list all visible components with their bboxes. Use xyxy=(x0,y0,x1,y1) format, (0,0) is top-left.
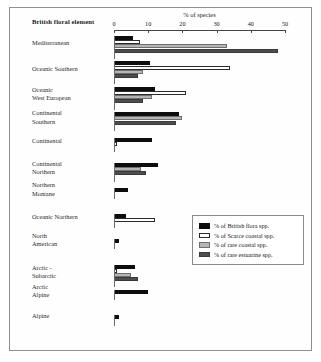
group-baseline xyxy=(114,61,115,84)
group-baseline xyxy=(114,188,115,198)
legend-item: % of rare estuarine spp. xyxy=(199,250,298,260)
bar xyxy=(114,277,138,281)
legend-item: % of rare coastal spp. xyxy=(199,240,298,250)
category-label-line: Subarctic xyxy=(32,272,110,280)
bar xyxy=(114,99,143,103)
category-label: ContinentalNorthern xyxy=(32,160,110,176)
bar xyxy=(114,138,152,142)
category-label-line: North xyxy=(32,232,110,240)
x-tick-label-50: 50 xyxy=(282,20,288,27)
chart-legend: % of British flora spp.% of Scarce coast… xyxy=(192,215,304,265)
bar xyxy=(114,74,138,78)
group-baseline xyxy=(114,214,115,228)
category-label-line: Alpine xyxy=(32,291,110,299)
legend-item: % of Scarce coastal spp. xyxy=(199,231,298,241)
category-column-header: British floral element xyxy=(32,18,108,26)
group-baseline xyxy=(114,87,115,110)
bar xyxy=(114,49,278,53)
legend-item: % of British flora spp. xyxy=(199,221,298,231)
group-baseline xyxy=(114,36,115,59)
x-tick-label-20: 20 xyxy=(179,20,185,27)
x-tick-label-40: 40 xyxy=(248,20,254,27)
category-label-line: Oceanic xyxy=(32,86,110,94)
category-label: Oceanic Northern xyxy=(32,213,110,221)
category-label: Mediterranean xyxy=(32,39,110,47)
category-label: NorthernMontane xyxy=(32,181,110,197)
category-label-line: Southern xyxy=(32,118,110,126)
bar xyxy=(114,121,176,125)
category-label: Arctic -Subarctic xyxy=(32,264,110,280)
legend-swatch-icon xyxy=(199,242,210,248)
category-label-line: Arctic - xyxy=(32,264,110,272)
category-label-line: Montane xyxy=(32,190,110,198)
category-label-line: Continental xyxy=(32,160,110,168)
legend-swatch-icon xyxy=(199,233,210,239)
group-baseline xyxy=(114,315,115,325)
category-label: Oceanic Southern xyxy=(32,65,110,73)
category-label: Continental xyxy=(32,137,110,145)
group-baseline xyxy=(114,138,115,152)
bar xyxy=(114,290,148,294)
category-label-line: West European xyxy=(32,94,110,102)
x-axis-title: % of species xyxy=(114,11,285,19)
group-baseline xyxy=(114,112,115,131)
category-label-line: Oceanic Southern xyxy=(32,65,110,73)
category-label-line: Continental xyxy=(32,109,110,117)
category-label: NorthAmerican xyxy=(32,232,110,248)
category-label-line: Alpine xyxy=(32,312,110,320)
group-baseline xyxy=(114,239,115,249)
legend-swatch-icon xyxy=(199,223,210,229)
category-label-line: Oceanic Northern xyxy=(32,213,110,221)
category-label: ContinentalSouthern xyxy=(32,109,110,125)
group-baseline xyxy=(114,163,115,182)
legend-swatch-icon xyxy=(199,252,210,258)
category-label-line: Continental xyxy=(32,137,110,145)
category-label-line: American xyxy=(32,240,110,248)
chart-figure: British floral element % of species 0102… xyxy=(0,0,321,362)
category-label-line: Arctic xyxy=(32,283,110,291)
x-tick-50 xyxy=(285,30,286,33)
group-baseline xyxy=(114,265,115,288)
bar xyxy=(114,218,155,222)
category-label: Alpine xyxy=(32,312,110,320)
category-label-line: Northern xyxy=(32,168,110,176)
category-label-line: Mediterranean xyxy=(32,39,110,47)
group-baseline xyxy=(114,290,115,300)
category-label: ArcticAlpine xyxy=(32,283,110,299)
legend-label: % of Scarce coastal spp. xyxy=(214,232,274,240)
legend-label: % of rare coastal spp. xyxy=(214,241,267,249)
category-label: OceanicWest European xyxy=(32,86,110,102)
legend-label: % of British flora spp. xyxy=(214,222,269,230)
x-tick-label-0: 0 xyxy=(112,20,115,27)
x-tick-label-30: 30 xyxy=(214,20,220,27)
bar xyxy=(114,171,146,175)
plot-area xyxy=(114,31,285,336)
x-tick-label-10: 10 xyxy=(145,20,151,27)
category-label-line: Northern xyxy=(32,181,110,189)
bar xyxy=(114,188,128,192)
legend-label: % of rare estuarine spp. xyxy=(214,251,273,259)
